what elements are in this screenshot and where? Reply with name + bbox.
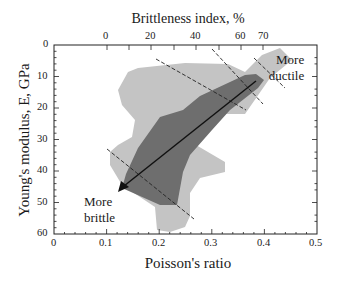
top-tick-20: 20 bbox=[145, 30, 156, 41]
x-tick-0: 0 bbox=[51, 237, 56, 248]
x-axis-title: Poisson's ratio bbox=[0, 255, 340, 272]
more-brittle-label: More brittle bbox=[84, 194, 115, 226]
y-axis-ticks-right bbox=[312, 58, 317, 222]
top-tick-60: 60 bbox=[235, 30, 246, 41]
more-brittle-line2: brittle bbox=[84, 210, 115, 226]
x-tick-0.4: 0.4 bbox=[257, 237, 270, 248]
top-axis-ticks bbox=[107, 45, 263, 50]
more-ductile-line2: ductile bbox=[264, 68, 304, 84]
top-tick-70: 70 bbox=[258, 30, 269, 41]
x-tick-0.5: 0.5 bbox=[309, 237, 322, 248]
y-tick-10: 10 bbox=[37, 70, 48, 81]
more-ductile-line1: More bbox=[274, 52, 304, 68]
y-tick-40: 40 bbox=[37, 164, 48, 175]
y-axis-ticks bbox=[54, 51, 59, 227]
top-tick-0: 0 bbox=[103, 30, 108, 41]
more-brittle-line1: More bbox=[84, 194, 115, 210]
y-tick-20: 20 bbox=[37, 101, 48, 112]
y-tick-0: 0 bbox=[43, 38, 48, 49]
y-tick-30: 30 bbox=[37, 133, 48, 144]
x-tick-0.3: 0.3 bbox=[204, 237, 217, 248]
more-ductile-label: More ductile bbox=[274, 52, 304, 84]
x-axis-ticks bbox=[65, 229, 307, 234]
top-axis-title: Brittleness index, % bbox=[0, 11, 340, 27]
y-axis-title: Young's modulus, E, GPa bbox=[16, 63, 33, 216]
x-tick-0.1: 0.1 bbox=[99, 237, 112, 248]
y-tick-50: 50 bbox=[37, 196, 48, 207]
y-tick-60: 60 bbox=[37, 227, 48, 238]
x-tick-0.2: 0.2 bbox=[152, 237, 165, 248]
top-tick-40: 40 bbox=[190, 30, 201, 41]
